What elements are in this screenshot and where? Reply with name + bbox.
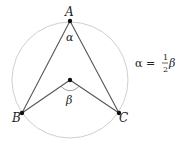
point-center xyxy=(68,78,72,82)
equation-frac-den: 2 xyxy=(163,65,168,74)
point-a xyxy=(68,19,72,23)
equation: α = 1 2 β xyxy=(135,53,175,74)
label-b: B xyxy=(11,111,21,125)
equation-rhs: β xyxy=(168,57,175,70)
equation-lhs: α = xyxy=(135,57,155,70)
segment-ab xyxy=(22,21,70,113)
segment-ob xyxy=(22,80,70,113)
label-c: C xyxy=(119,111,128,125)
segment-oc xyxy=(70,80,119,113)
inscribed-angle-diagram: A α β B C α = 1 2 β xyxy=(0,0,177,144)
label-alpha: α xyxy=(66,31,74,44)
angle-beta-arc xyxy=(61,86,79,91)
segment-ac xyxy=(70,21,119,113)
label-beta: β xyxy=(65,94,72,107)
label-a: A xyxy=(64,5,74,19)
equation-frac-num: 1 xyxy=(163,53,168,62)
